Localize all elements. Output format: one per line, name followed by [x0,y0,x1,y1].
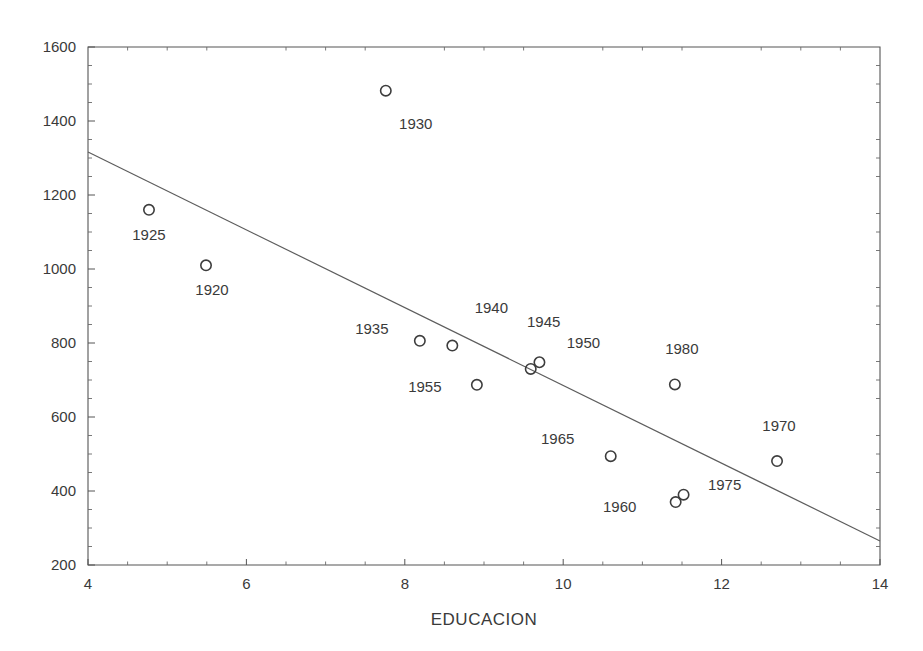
data-point-1930 [381,85,391,95]
y-tick-label-400: 400 [51,482,76,499]
y-tick-label-200: 200 [51,556,76,573]
data-point-1925 [144,205,154,215]
y-axis-tick-labels: 2004006008001000120014001600 [43,38,76,573]
x-tick-label-8: 8 [401,575,409,592]
data-point-1955 [472,380,482,390]
y-tick-label-1200: 1200 [43,186,76,203]
data-point-label-1945: 1945 [527,313,560,330]
trend-line [88,152,880,541]
x-tick-label-10: 10 [555,575,572,592]
data-point-1935 [415,336,425,346]
scatter-chart: 2004006008001000120014001600 468101214 1… [0,0,923,651]
regression-line [88,152,880,541]
y-tick-label-1400: 1400 [43,112,76,129]
x-tick-label-12: 12 [713,575,730,592]
data-point-label-1965: 1965 [541,430,574,447]
data-point-label-1955: 1955 [408,378,441,395]
y-tick-label-1000: 1000 [43,260,76,277]
data-points [144,85,782,507]
x-tick-label-14: 14 [872,575,889,592]
data-point-1975 [678,490,688,500]
plot-svg: 2004006008001000120014001600 468101214 1… [0,0,923,651]
data-point-label-1940: 1940 [475,299,508,316]
data-point-label-1920: 1920 [195,281,228,298]
data-point-label-1930: 1930 [399,115,432,132]
data-point-1940 [447,340,457,350]
data-point-label-1960: 1960 [603,498,636,515]
data-point-label-1950: 1950 [567,334,600,351]
y-tick-label-1600: 1600 [43,38,76,55]
data-point-labels: 1920192519301935194019451950195519601965… [132,115,795,515]
x-axis-tick-labels: 468101214 [84,575,889,592]
data-point-label-1935: 1935 [355,320,388,337]
x-tick-label-4: 4 [84,575,92,592]
data-point-1920 [201,260,211,270]
data-point-label-1970: 1970 [762,417,795,434]
data-point-label-1925: 1925 [132,226,165,243]
x-axis-title: EDUCACION [431,610,538,629]
data-point-1965 [606,451,616,461]
data-point-label-1980: 1980 [665,340,698,357]
data-point-1970 [772,456,782,466]
y-tick-label-600: 600 [51,408,76,425]
data-point-label-1975: 1975 [708,476,741,493]
data-point-1980 [670,379,680,389]
x-tick-label-6: 6 [242,575,250,592]
data-point-1950 [534,357,544,367]
y-tick-label-800: 800 [51,334,76,351]
